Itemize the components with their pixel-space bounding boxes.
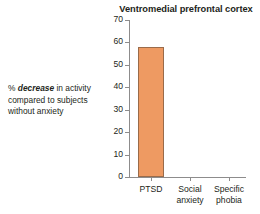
- chart-title: Ventromedial prefrontal cortex: [113, 4, 259, 15]
- y-tick-label-70: 70: [113, 14, 123, 25]
- plot-area: 0 10 20 30 40 50 60 70: [129, 20, 246, 177]
- y-tick-label-60: 60: [113, 36, 123, 47]
- chart-figure: Ventromedial prefrontal cortex % decreas…: [0, 0, 260, 214]
- annotation-line-1: % decrease in activity: [8, 83, 91, 93]
- annotation-suffix: in activity: [54, 83, 91, 93]
- y-axis-annotation: % decrease in activity compared to subje…: [8, 83, 110, 118]
- x-tick-specific-phobia: [229, 177, 230, 181]
- y-axis-line: [129, 20, 130, 177]
- y-tick-label-20: 20: [113, 126, 123, 137]
- y-tick-label-0: 0: [118, 171, 123, 182]
- annotation-line-3: without anxiety: [8, 106, 63, 116]
- y-tick-label-50: 50: [113, 59, 123, 70]
- y-tick-label-40: 40: [113, 81, 123, 92]
- x-label-specific-phobia-line-1: Specific: [214, 184, 244, 194]
- x-tick-ptsd: [151, 177, 152, 181]
- x-axis-line: [125, 177, 246, 178]
- annotation-line-2: compared to subjects: [8, 95, 88, 105]
- x-label-ptsd-line-1: PTSD: [140, 184, 163, 194]
- bar-ptsd: [138, 47, 164, 177]
- annotation-emphasis: decrease: [18, 83, 54, 93]
- x-label-specific-phobia: Specific phobia: [199, 184, 259, 207]
- y-tick-label-10: 10: [113, 149, 123, 160]
- x-label-specific-phobia-line-2: phobia: [216, 195, 242, 205]
- annotation-prefix: %: [8, 83, 18, 93]
- y-tick-label-30: 30: [113, 104, 123, 115]
- x-tick-social-anxiety: [190, 177, 191, 181]
